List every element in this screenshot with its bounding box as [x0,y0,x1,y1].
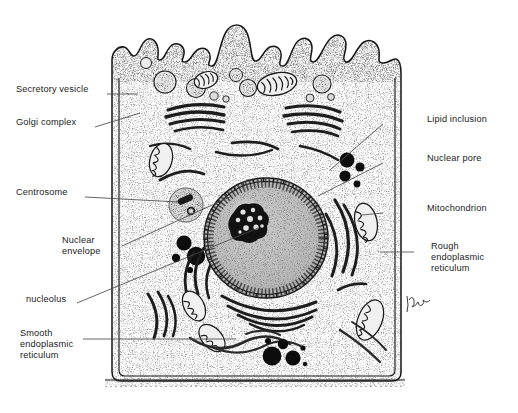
figure-canvas: Secretory vesicle Golgi complex Centroso… [0,0,518,413]
label-golgi-complex: Golgi complex [16,117,76,128]
label-nuclear-pore: Nuclear pore [427,153,481,164]
label-nucleolus: nucleolus [26,294,66,305]
label-lipid-inclusion: Lipid inclusion [427,114,487,125]
label-centrosome: Centrosome [16,187,68,198]
basal-lamina [105,378,405,387]
label-nuclear-envelope: Nuclear envelope [62,235,101,257]
label-smooth-endoplasmic-reticulum: Smooth endoplasmic reticulum [20,328,73,362]
artist-signature [407,296,430,312]
label-rough-endoplasmic-reticulum: Rough endoplasmic reticulum [431,241,484,275]
label-mitochondrion: Mitochondrion [427,203,487,214]
label-secretory-vesicle: Secretory vesicle [16,84,89,95]
